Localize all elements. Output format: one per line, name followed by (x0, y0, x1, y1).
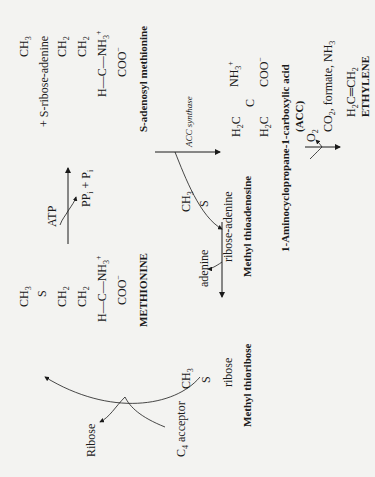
acc-abbr: (ACC) (294, 101, 305, 132)
mta-label: Methyl thioadenosine (242, 176, 253, 277)
sam-label: S-adenosyl methionine (138, 26, 149, 132)
ethylene-structure: H2C═CH2 (345, 67, 357, 117)
mta-ch3: CH3 (180, 191, 192, 212)
acc-label: 1-Aminocyclopropane-1-carboxylic acid (280, 64, 291, 252)
mtr-s: S (200, 376, 212, 383)
methionine-ch2b: CH2 (76, 286, 88, 307)
methionine-s: S (36, 290, 48, 297)
methionine-coo: COO− (116, 275, 128, 305)
acc-h2c-b: H2C (258, 116, 270, 137)
co2-formate-nh3-label: CO2, formate, NH3 (322, 41, 334, 132)
sam-coo: COO− (116, 47, 128, 77)
ethylene-pathway-diagram: CH3 S CH2 CH2 H—C—NH3+ COO− METHIONINE A… (0, 0, 375, 477)
mtr-ch3: CH3 (180, 368, 192, 389)
methionine-ch2a: CH2 (56, 286, 68, 307)
methionine-ch3: CH3 (18, 286, 30, 307)
acc-nh3: NH3+ (228, 61, 240, 87)
acc-coo: COO− (258, 57, 270, 87)
adenine-label: adenine (198, 250, 210, 287)
acc-c: C (244, 99, 256, 107)
methionine-label: METHIONINE (138, 253, 149, 327)
mta-s: S (198, 200, 210, 207)
sam-ch3: CH3 (18, 36, 30, 57)
sam-hc: H—C—NH3+ (96, 30, 108, 97)
acc-h2c-a: H2C (230, 116, 242, 137)
mtr-tail: ribose (222, 358, 234, 387)
methionine-hc: H—C—NH3+ (96, 255, 108, 322)
ribose-label: Ribose (85, 424, 97, 457)
acc-synthase-label: ACC synthase (185, 96, 194, 147)
ppi-pi-label: PPi + Pi (80, 170, 92, 207)
mta-tail: ribose-adenine (222, 191, 234, 262)
c4-acceptor-label: C4 acceptor (175, 401, 187, 457)
mtr-label: Methyl thioribose (242, 344, 253, 427)
o2-label: O2 (305, 129, 317, 142)
sam-s-ribose: + S-ribose-adenine (38, 36, 50, 127)
sam-ch2a: CH2 (56, 36, 68, 57)
atp-label: ATP (46, 206, 58, 227)
sam-ch2b: CH2 (76, 36, 88, 57)
ethylene-label: ETHYLENE (360, 56, 371, 117)
